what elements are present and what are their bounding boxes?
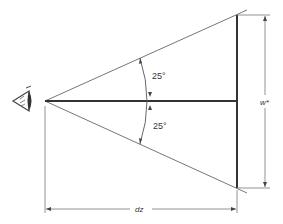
upper-angle-label: 25° [152, 71, 166, 81]
viewing-angle-diagram: 25° 25° w* dz [0, 0, 283, 224]
eye-icon [13, 86, 32, 111]
distance-label: dz [135, 205, 143, 214]
lower-angle-label: 25° [153, 121, 167, 131]
width-label: w* [260, 98, 270, 107]
